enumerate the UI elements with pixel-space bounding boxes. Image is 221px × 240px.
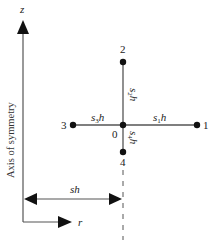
dimension-arrow-left-icon: [24, 193, 37, 205]
sh-dimension-label: sh: [70, 183, 80, 195]
node-label-3: 3: [61, 119, 67, 131]
node-labels: 0 1 2 3 4: [61, 43, 209, 168]
node-1: [194, 122, 200, 128]
axis-of-symmetry-label: Axis of symmetry: [5, 101, 16, 178]
edge-label-s3h: s3h: [91, 111, 105, 125]
r-axis: r: [23, 216, 83, 228]
edge-label-s1h: s1h: [153, 111, 167, 125]
sh-dimension: sh: [24, 170, 123, 240]
z-axis-arrow-icon: [17, 20, 29, 34]
z-axis: z: [17, 3, 29, 222]
finite-difference-stencil-diagram: z Axis of symmetry r sh s1h s3h s2h s4h: [0, 0, 221, 240]
node-4: [120, 149, 126, 155]
edge-label-s4h: s4h: [126, 131, 140, 145]
node-label-2: 2: [120, 43, 126, 55]
node-label-1: 1: [203, 119, 209, 131]
dimension-arrow-right-icon: [109, 193, 122, 205]
r-axis-label: r: [78, 216, 83, 228]
node-2: [120, 59, 126, 65]
edge-labels: s1h s3h s2h s4h: [91, 88, 167, 145]
node-0: [120, 122, 126, 128]
node-label-4: 4: [120, 156, 126, 168]
z-axis-label: z: [19, 3, 25, 15]
r-axis-arrow-icon: [58, 216, 72, 228]
edge-label-s2h: s2h: [126, 88, 140, 102]
node-label-0: 0: [112, 128, 118, 140]
node-3: [70, 122, 76, 128]
